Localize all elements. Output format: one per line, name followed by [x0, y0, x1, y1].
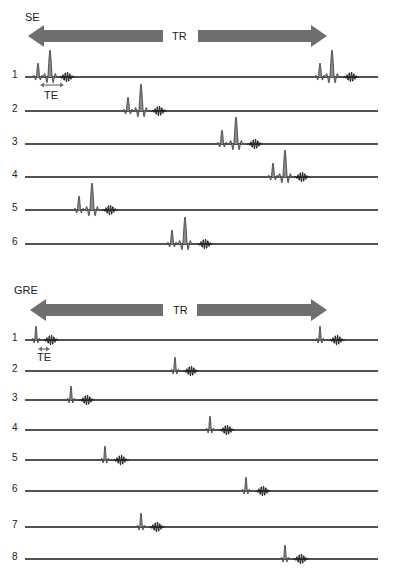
gradient-echo-icon [219, 425, 235, 435]
rf-180-pulse-icon [135, 84, 148, 117]
rf-180-pulse-icon [279, 150, 292, 183]
spin-echo-icon [59, 72, 75, 82]
gre-tr-arrow-right-icon [197, 299, 327, 321]
spin-echo-icon [102, 205, 118, 215]
gradient-echo-icon [329, 335, 345, 345]
pulse-sequence-diagram [0, 0, 393, 574]
rf-180-pulse-icon [86, 183, 99, 216]
se-sequence [25, 25, 378, 250]
rf-180-pulse-icon [179, 217, 192, 250]
se-tr-arrow-right-icon [198, 25, 327, 47]
gradient-echo-icon [113, 455, 129, 465]
gradient-echo-icon [149, 522, 165, 532]
gradient-echo-icon [183, 366, 199, 376]
gre-te-arrowhead-left-icon [38, 347, 42, 352]
se-tr-arrow-left-icon [28, 25, 163, 47]
spin-echo-icon [294, 172, 310, 182]
spin-echo-icon [247, 139, 263, 149]
spin-echo-icon [151, 106, 167, 116]
gradient-echo-icon [79, 395, 95, 405]
rf-180-pulse-icon [230, 117, 243, 150]
gradient-echo-icon [293, 554, 309, 564]
gre-te-arrowhead-right-icon [46, 347, 50, 352]
se-te-arrowhead-left-icon [40, 83, 44, 88]
gradient-echo-icon [255, 486, 271, 496]
gre-sequence [25, 299, 378, 564]
gre-tr-arrow-left-icon [30, 299, 163, 321]
spin-echo-icon [197, 239, 213, 249]
gradient-echo-icon [43, 335, 59, 345]
spin-echo-icon [343, 72, 359, 82]
rf-180-pulse-icon [326, 50, 339, 83]
se-te-arrowhead-right-icon [60, 83, 64, 88]
rf-180-pulse-icon [44, 50, 57, 83]
